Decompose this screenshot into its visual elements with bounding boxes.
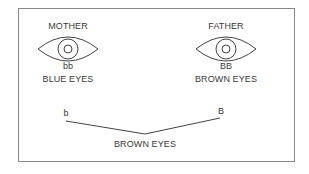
mother-eye-icon	[38, 37, 98, 61]
offspring-phenotype: BROWN EYES	[114, 139, 176, 149]
mother-title: MOTHER	[48, 21, 88, 31]
father-title: FATHER	[208, 21, 243, 31]
offspring-allele-right: B	[218, 106, 224, 116]
father-genotype: BB	[220, 61, 232, 71]
father-eye-icon	[196, 37, 256, 61]
father-phenotype: BROWN EYES	[195, 74, 257, 84]
mother-phenotype: BLUE EYES	[43, 74, 94, 84]
mother-genotype: bb	[63, 61, 73, 71]
offspring-allele-left: b	[63, 108, 68, 118]
inheritance-lines	[66, 118, 220, 134]
